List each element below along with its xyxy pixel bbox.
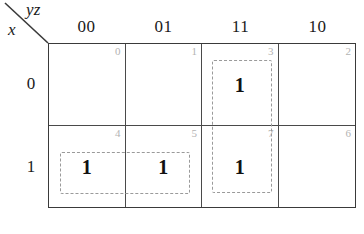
kmap-cell-6[interactable]: 6 xyxy=(279,126,356,208)
axis-label-yz: yz xyxy=(26,1,41,18)
cell-value-1 xyxy=(126,44,202,125)
column-headers: 00 01 11 10 xyxy=(48,14,356,42)
kmap-cell-4[interactable]: 4 1 xyxy=(49,126,126,208)
kmap-cell-1[interactable]: 1 xyxy=(126,44,203,126)
column-header-11: 11 xyxy=(202,14,279,42)
cell-value-6 xyxy=(279,126,356,208)
kmap-cell-5[interactable]: 5 1 xyxy=(126,126,203,208)
cell-value-0 xyxy=(49,44,125,125)
row-header-0: 0 xyxy=(16,43,46,126)
kmap-grid: 0 1 3 1 2 4 1 5 1 7 1 6 xyxy=(48,43,356,208)
kmap-cell-0[interactable]: 0 xyxy=(49,44,126,126)
cell-value-3: 1 xyxy=(202,44,278,125)
column-header-10: 10 xyxy=(279,14,356,42)
kmap-cell-7[interactable]: 7 1 xyxy=(202,126,279,208)
cell-value-5: 1 xyxy=(126,126,202,208)
cell-value-2 xyxy=(279,44,356,125)
karnaugh-map-diagram: yz x 00 01 11 10 0 1 0 1 3 1 2 4 xyxy=(0,0,364,234)
cell-value-7: 1 xyxy=(202,126,278,208)
column-header-01: 01 xyxy=(125,14,202,42)
axis-label-x: x xyxy=(8,21,16,38)
column-header-00: 00 xyxy=(48,14,125,42)
kmap-cell-2[interactable]: 2 xyxy=(279,44,356,126)
kmap-cell-3[interactable]: 3 1 xyxy=(202,44,279,126)
row-headers: 0 1 xyxy=(16,43,46,208)
row-header-1: 1 xyxy=(16,126,46,209)
cell-value-4: 1 xyxy=(49,126,125,208)
